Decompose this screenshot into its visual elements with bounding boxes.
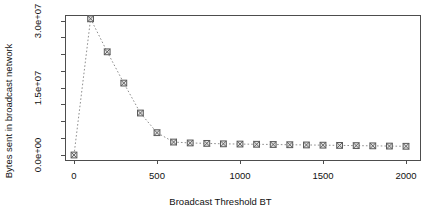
- series-group: [74, 19, 406, 155]
- data-point-15: [320, 142, 326, 148]
- data-point-7: [187, 140, 193, 146]
- data-point-5: [154, 130, 160, 136]
- data-point-8: [204, 140, 210, 146]
- series-polyline: [74, 19, 406, 155]
- data-point-1: [88, 16, 94, 22]
- data-point-10: [237, 141, 243, 147]
- plot-area: [0, 0, 441, 222]
- data-point-14: [304, 142, 310, 148]
- plot-box: [65, 15, 420, 160]
- data-point-20: [403, 143, 409, 149]
- chart-figure: Bytes sent in broadcast network Broadcas…: [0, 0, 441, 222]
- data-point-3: [121, 80, 127, 86]
- data-point-11: [254, 141, 260, 147]
- data-point-16: [337, 143, 343, 149]
- data-markers-group: [71, 16, 409, 158]
- data-point-18: [370, 143, 376, 149]
- data-point-4: [138, 110, 144, 116]
- data-point-12: [270, 142, 276, 148]
- data-point-6: [171, 139, 177, 145]
- data-point-13: [287, 142, 293, 148]
- data-point-19: [387, 143, 393, 149]
- data-point-9: [221, 141, 227, 147]
- data-point-0: [71, 152, 77, 158]
- data-point-2: [104, 49, 110, 55]
- data-point-17: [353, 143, 359, 149]
